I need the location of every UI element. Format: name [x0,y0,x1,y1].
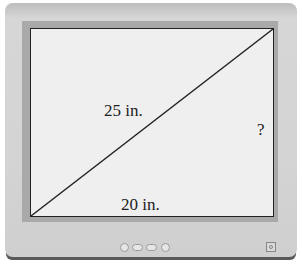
diagonal-label: 25 in. [104,102,143,119]
monitor-button-1 [120,243,129,252]
height-label: ? [257,121,265,138]
power-button-icon [266,242,276,252]
monitor-button-3 [146,244,157,251]
monitor-button-2 [132,244,143,251]
monitor-button-4 [161,243,170,252]
base-label: 20 in. [121,196,160,213]
monitor-diagram: 25 in. 20 in. ? [0,0,302,275]
